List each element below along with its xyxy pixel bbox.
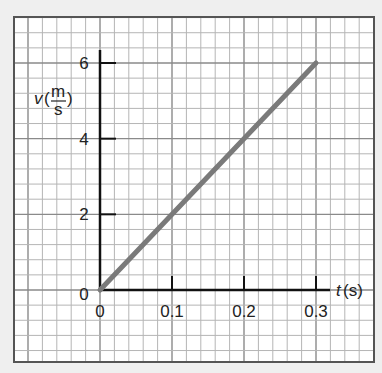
y-label-close-paren: ) — [67, 89, 73, 108]
y-tick-label: 0 — [79, 285, 88, 304]
x-label-unit: (s) — [343, 281, 363, 300]
y-label-denominator: s — [54, 100, 63, 119]
x-axis-label: t (s) — [336, 281, 363, 300]
y-tick-label: 6 — [79, 54, 88, 73]
x-tick-label: 0 — [95, 302, 104, 321]
y-tick-label: 4 — [79, 130, 88, 149]
x-tick-label: 0.1 — [160, 302, 184, 321]
y-label-open-paren: ( — [44, 89, 50, 108]
x-tick-label: 0.2 — [232, 302, 256, 321]
y-label-numerator: m — [51, 82, 65, 101]
y-tick-label: 2 — [79, 205, 88, 224]
velocity-time-graph: 00.10.20.30246 v ( m s ) t (s) — [0, 0, 382, 373]
x-tick-label: 0.3 — [304, 302, 328, 321]
